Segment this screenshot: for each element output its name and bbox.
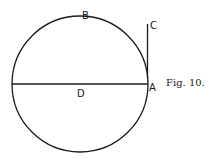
geometry-figure: B C A D Fig. 10. (0, 0, 209, 160)
label-a: A (149, 82, 156, 93)
figure-caption: Fig. 10. (166, 77, 205, 88)
label-c: C (150, 20, 157, 31)
label-d: D (77, 88, 85, 99)
label-b: B (82, 10, 89, 21)
